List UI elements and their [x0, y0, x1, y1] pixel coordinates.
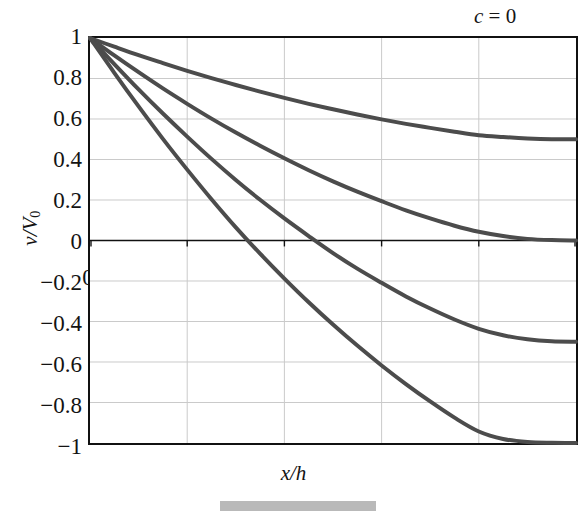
- y-tick-0p8: 0.8: [8, 66, 82, 89]
- curve-label-c0: c = 0: [474, 4, 516, 29]
- y-axis-label: v/V0: [18, 193, 44, 263]
- y-axis-label-slash: /: [18, 230, 42, 236]
- y-tick-1: 1: [8, 25, 82, 48]
- zero-axis-line: [90, 241, 576, 247]
- x-axis-label: x/h: [0, 461, 587, 486]
- y-tick-neg0p8: −0.8: [8, 394, 82, 417]
- y-tick-neg1: −1: [8, 435, 82, 458]
- curve-1p5: [90, 38, 576, 342]
- plot-canvas: [90, 38, 576, 443]
- scan-artifact-bar: [220, 501, 376, 511]
- plot-area: [88, 36, 578, 445]
- y-axis-label-sub: 0: [27, 211, 43, 218]
- y-tick-neg0p4: −0.4: [8, 312, 82, 335]
- y-axis-label-v: v: [18, 236, 42, 245]
- figure-chart-velocity-profile: 1 0.8 0.6 0.4 0.2 0 −0.2 −0.4 −0.6 −0.8 …: [0, 0, 587, 516]
- y-tick-neg0p6: −0.6: [8, 353, 82, 376]
- y-tick-0p6: 0.6: [8, 107, 82, 130]
- y-tick-0p4: 0.4: [8, 148, 82, 171]
- y-axis-label-V: V: [18, 218, 42, 231]
